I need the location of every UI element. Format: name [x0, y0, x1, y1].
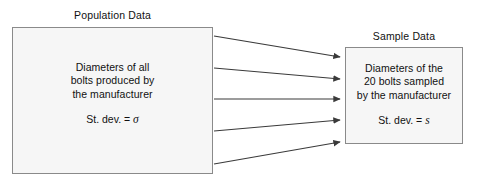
sample-description: Diameters of the 20 bolts sampled by the… [357, 62, 451, 102]
population-description: Diameters of all bolts produced by the m… [71, 61, 155, 101]
population-stdev-label: St. dev. = [86, 113, 130, 125]
population-line-1: Diameters of all [71, 61, 155, 74]
sample-stdev: St. dev. = s [357, 114, 451, 127]
population-data-box: Diameters of all bolts produced by the m… [12, 27, 213, 174]
sample-stdev-label: St. dev. = [378, 114, 422, 126]
sample-title: Sample Data [345, 30, 463, 43]
s-symbol: s [425, 114, 429, 126]
sample-line-3: by the manufacturer [357, 89, 451, 102]
sample-line-2: 20 bolts sampled [357, 75, 451, 88]
population-line-2: bolts produced by [71, 74, 155, 87]
population-title: Population Data [12, 9, 213, 22]
population-stdev: St. dev. = σ [71, 113, 155, 126]
arrow-5 [214, 142, 340, 164]
arrow-1 [214, 36, 340, 57]
arrow-4 [214, 120, 340, 131]
sample-line-1: Diameters of the [357, 62, 451, 75]
arrow-2 [214, 68, 340, 79]
diagram-canvas: Population Data Diameters of all bolts p… [0, 0, 478, 183]
sigma-symbol: σ [133, 113, 139, 125]
sample-data-box: Diameters of the 20 bolts sampled by the… [345, 47, 463, 144]
population-line-3: the manufacturer [71, 88, 155, 101]
